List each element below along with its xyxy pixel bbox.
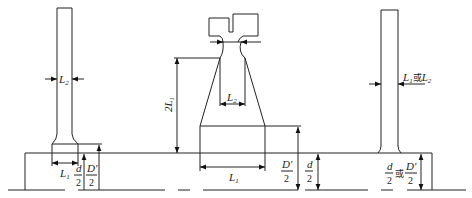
svg-text:L1: L1 [228,171,239,185]
svg-text:d: d [387,160,393,172]
svg-text:D': D' [86,162,98,174]
svg-text:d: d [307,158,313,170]
right-post: L1或L2 d2 或 D'2 [369,10,432,190]
svg-text:2: 2 [89,177,94,188]
svg-text:D': D' [405,160,417,172]
left-l2-label: L2 [58,73,69,87]
svg-text:d: d [76,162,82,174]
svg-text:L1或L2: L1或L2 [402,71,432,85]
middle-post: 2L1 L2 L1 D'2 d2 [162,14,318,190]
dimension-diagram: L2 L1 d2 D'2 2L1 L2 L1 [0,0,472,198]
svg-text:D': D' [281,158,293,170]
svg-text:L1: L1 [59,167,70,181]
svg-text:2L1: 2L1 [162,97,176,112]
svg-text:L2: L2 [226,91,237,105]
left-post: L2 L1 d2 D'2 [45,8,102,190]
svg-text:2: 2 [307,173,312,184]
svg-text:2: 2 [387,175,392,186]
svg-text:2: 2 [408,175,413,186]
svg-text:2: 2 [76,177,81,188]
svg-text:2: 2 [284,173,289,184]
svg-text:或: 或 [395,168,404,179]
